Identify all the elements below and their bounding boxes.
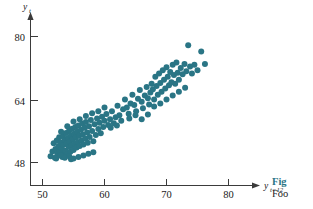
scatter-point [145,111,151,117]
scatter-point [176,89,182,95]
x-axis-title-base: y [263,181,269,191]
scatter-point [102,104,108,110]
scatter-point [122,97,128,103]
scatter-point [157,100,163,106]
scatter-point [183,68,189,74]
y-tick-label-64: 64 [15,96,26,107]
scatter-point [115,103,121,109]
scatter-point [95,108,101,114]
x-tick-label-50: 50 [37,189,48,200]
x-tick-label-80: 80 [223,189,234,200]
scatter-point [144,84,150,90]
x-tick-label-70: 70 [161,189,172,200]
scatter-point [108,125,114,131]
scatter-point [85,140,91,146]
x-axis-arrowhead [252,182,260,188]
y-tick-label-80: 80 [15,32,26,43]
scatter-point [103,111,109,117]
scatter-point [131,102,137,108]
scatter-point [182,85,188,91]
scatter-point [151,97,157,103]
x-axis-ticks: 50 60 70 80 [37,179,234,200]
scatter-point [98,130,104,136]
scatter-point [195,67,201,73]
scatter-point [64,123,70,129]
scatter-plot-figure: 80 64 48 50 60 70 80 y t y t−12 [0,0,313,209]
scatter-point [83,113,89,119]
scatter-point [164,64,170,70]
scatter-point [191,62,197,68]
scatter-point [145,95,151,101]
scatter-point [164,97,170,103]
scatter-point [77,116,83,122]
scatter-point [140,105,146,111]
scatter-point [189,71,195,77]
scatter-point [139,99,145,105]
scatter-point [89,110,95,116]
scatter-point [137,87,143,93]
scatter-point [170,93,176,99]
scatter-point [198,48,204,54]
scatter-point [139,116,145,122]
x-tick-label-60: 60 [99,189,110,200]
scatter-point [114,122,120,128]
figure-caption-label: Fig [272,176,313,188]
scatter-point [202,61,208,67]
figure-caption-body: Foo [272,188,313,200]
scatter-point [185,42,191,48]
scatter-point [109,108,115,114]
scatter-point [173,59,179,65]
scatter-point [118,118,124,124]
scatter-point [68,156,74,162]
y-tick-label-48: 48 [15,158,26,169]
scatter-point [90,138,96,144]
scatter-point [58,129,64,135]
scatter-point [90,149,96,155]
scatter-points-layer [48,42,208,162]
scatter-point [181,61,187,67]
scatter-point [129,92,135,98]
plot-canvas: 80 64 48 50 60 70 80 y t y t−12 [0,0,313,209]
scatter-point [116,112,122,118]
y-axis-title: y t [22,2,32,14]
y-axis [27,12,33,186]
y-axis-title-subscript: t [29,7,32,14]
x-axis [31,182,261,188]
y-axis-title-base: y [22,2,28,12]
scatter-point [176,77,182,83]
y-axis-ticks: 80 64 48 [15,32,39,169]
scatter-point [151,104,157,110]
figure-caption: Fig Foo [272,176,313,200]
scatter-point [71,119,77,125]
scatter-point [126,115,132,121]
scatter-point [133,112,139,118]
